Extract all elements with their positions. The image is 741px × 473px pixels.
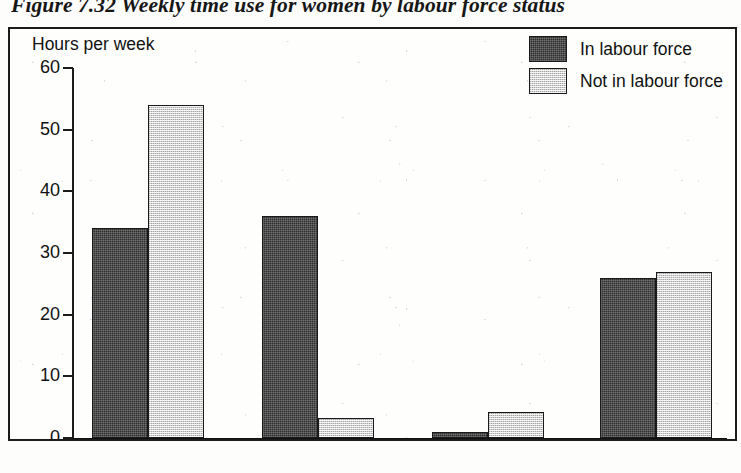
bar-studying-not-in-labour-force (488, 412, 544, 438)
x-axis-line (72, 438, 727, 441)
y-tick-label: 20 (18, 304, 60, 325)
figure-caption: Figure 7.32 Weekly time use for women by… (11, 0, 731, 21)
bar-paid-work-in-labour-force (262, 216, 318, 438)
figure-frame: Hours per week In labour force Not in la… (8, 27, 737, 441)
bar-relaxing-other-in-labour-force (600, 278, 656, 438)
y-tick-label: 60 (18, 57, 60, 78)
y-tick-mark (63, 190, 73, 192)
y-tick-mark (63, 437, 73, 439)
y-tick-mark (63, 67, 73, 69)
bar-paid-work-not-in-labour-force (318, 418, 374, 438)
y-tick-label: 40 (18, 180, 60, 201)
y-tick-label: 10 (18, 365, 60, 386)
bar-hosework-not-in-labour-force (148, 105, 204, 438)
bar-relaxing-other-not-in-labour-force (656, 272, 712, 439)
y-tick-label: 0 (18, 427, 60, 441)
y-tick-label: 50 (18, 119, 60, 140)
y-tick-label: 30 (18, 242, 60, 263)
y-tick-mark (63, 314, 73, 316)
bar-studying-in-labour-force (432, 432, 488, 438)
bar-chart-plot: 0102030405060HoseworkPaid workStudyingRe… (10, 29, 737, 441)
y-tick-mark (63, 129, 73, 131)
y-tick-mark (63, 375, 73, 377)
bar-hosework-in-labour-force (92, 228, 148, 438)
y-tick-mark (63, 252, 73, 254)
